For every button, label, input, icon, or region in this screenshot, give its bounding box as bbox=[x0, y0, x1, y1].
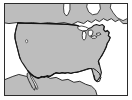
lake-erie bbox=[91, 36, 97, 38]
lake-huron bbox=[88, 30, 93, 36]
inland-lake bbox=[26, 40, 28, 43]
map-frame-border bbox=[4, 3, 128, 96]
map-title: equirectangular-like continental view bbox=[0, 0, 1, 1]
lake-ontario bbox=[97, 33, 101, 35]
lake-michigan bbox=[82, 31, 86, 40]
map-figure: equirectangular-like continental view bbox=[0, 0, 132, 100]
map-canvas bbox=[5, 4, 127, 95]
